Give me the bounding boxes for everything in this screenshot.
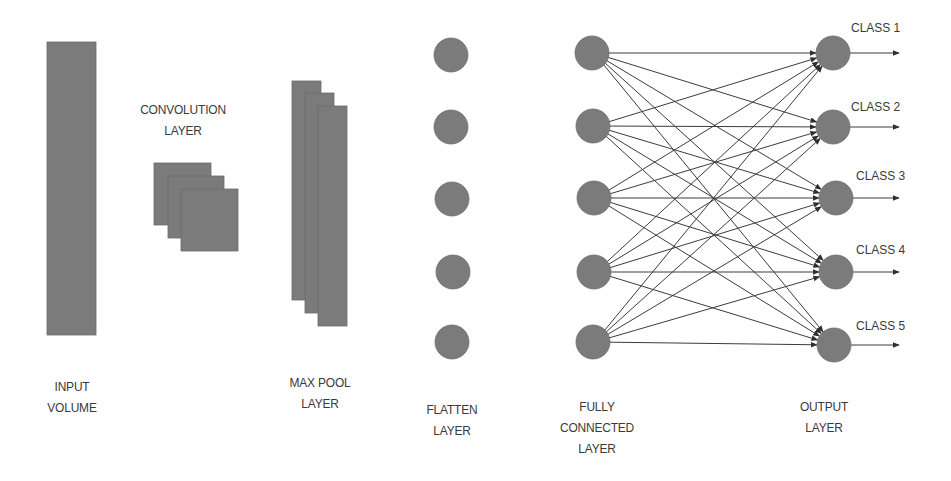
fully-connected-layer-nodes [575, 36, 611, 359]
label-max-pool-layer: MAX POOL LAYER [281, 372, 358, 414]
class-label-2: CLASS 2 [851, 99, 900, 115]
fc-node-2 [576, 109, 610, 143]
flatten-node-5 [435, 325, 469, 359]
label-line: LAYER [125, 120, 241, 141]
connection-edge [595, 66, 822, 342]
conv-feature-map-3 [181, 189, 238, 251]
connection-edge [596, 62, 818, 198]
class-label-5: CLASS 5 [856, 318, 905, 334]
flatten-node-2 [434, 110, 468, 144]
connection-edge [595, 126, 816, 127]
label-output-layer: OUTPUT LAYER [785, 396, 862, 438]
connection-edge [595, 126, 821, 263]
connection-edge [595, 277, 820, 342]
label-line: LAYER [785, 417, 862, 438]
label-input-volume: INPUT VOLUME [33, 376, 110, 418]
fully-connected-edges [594, 53, 823, 345]
fc-node-1 [575, 36, 609, 70]
connection-edge [595, 126, 820, 193]
flatten-node-4 [436, 255, 470, 289]
connection-edge [596, 132, 817, 198]
label-fully-connected-layer: FULLY CONNECTED LAYER [556, 396, 639, 459]
label-line: CONVOLUTION [125, 99, 241, 120]
connection-edge [595, 126, 821, 334]
label-line: MAX POOL [281, 372, 358, 393]
label-line: FLATTEN [415, 399, 489, 420]
connection-edge [595, 58, 817, 126]
class-label-1: CLASS 1 [851, 20, 900, 36]
fc-node-5 [576, 325, 610, 359]
label-line: INPUT [33, 376, 110, 397]
label-line: FULLY [556, 396, 639, 417]
label-convolution-layer: CONVOLUTION LAYER [125, 99, 241, 141]
label-line: VOLUME [33, 397, 110, 418]
flatten-node-1 [434, 38, 468, 72]
connection-edge [596, 198, 820, 267]
flatten-node-3 [435, 182, 469, 216]
label-line: LAYER [281, 393, 358, 414]
output-node-5 [817, 328, 851, 362]
connection-edge [596, 198, 820, 336]
label-flatten-layer: FLATTEN LAYER [415, 399, 489, 441]
input-volume-block [47, 42, 96, 335]
label-line: OUTPUT [785, 396, 862, 417]
flatten-layer-nodes [434, 38, 470, 359]
connection-edge [594, 53, 817, 122]
connection-edge [596, 203, 820, 272]
output-node-2 [816, 110, 850, 144]
output-node-4 [819, 255, 853, 289]
output-layer-nodes [816, 36, 853, 362]
label-line: CONNECTED [556, 417, 639, 438]
fc-node-3 [577, 181, 611, 215]
max-pool-layer-stack [292, 81, 347, 326]
connection-edge [596, 272, 818, 340]
class-label-4: CLASS 4 [856, 242, 905, 258]
convolution-layer-stack [154, 163, 238, 251]
connection-edge [595, 342, 817, 345]
class-label-3: CLASS 3 [856, 168, 905, 184]
connection-edge [594, 53, 823, 332]
label-line: LAYER [415, 420, 489, 441]
pooled-feature-map-3 [318, 106, 347, 326]
input-volume-rect [47, 42, 96, 335]
output-node-1 [816, 36, 850, 70]
connection-edge [596, 136, 818, 272]
fc-node-4 [577, 255, 611, 289]
output-arrows [850, 53, 899, 345]
connection-edge [595, 207, 821, 342]
output-node-3 [819, 181, 853, 215]
label-line: LAYER [556, 438, 639, 459]
